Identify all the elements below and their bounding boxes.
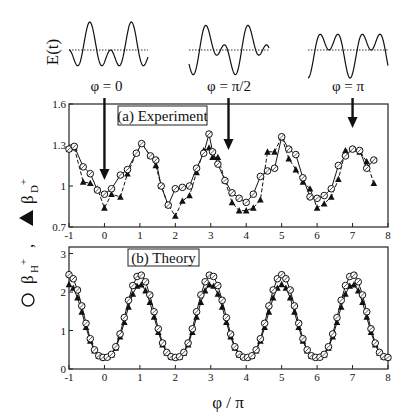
x-tick-label: 1 xyxy=(137,229,143,241)
x-tick-label: 8 xyxy=(385,229,391,241)
arrow-head xyxy=(224,139,234,150)
et-axis-label: E(t) xyxy=(43,39,62,65)
series-line-dashed xyxy=(69,137,374,216)
x-tick-label: 5 xyxy=(279,371,285,383)
y-tick-label: 0 xyxy=(61,363,67,375)
triangle-marker xyxy=(80,178,87,184)
triangle-marker xyxy=(179,198,186,204)
series-line-solid xyxy=(69,134,374,205)
triangle-marker xyxy=(229,199,236,205)
triangle-marker xyxy=(335,176,342,182)
triangle-marker xyxy=(186,192,193,198)
triangle-marker xyxy=(257,196,264,202)
y-axis-title: βH+,βD+ xyxy=(17,179,40,306)
x-tick-label: 7 xyxy=(350,229,356,241)
beta-d-subscript: D xyxy=(28,185,40,193)
panel-a: -10123456780.711.31.6(a) Experiment xyxy=(52,98,391,241)
beta-h-label: β xyxy=(18,275,37,284)
y-tick-label: 1.3 xyxy=(52,139,66,151)
x-tick-label: 1 xyxy=(137,371,143,383)
y-tick-label: 3 xyxy=(61,248,67,260)
beta-h-superscript: + xyxy=(17,259,29,265)
beta-d-superscript: + xyxy=(17,179,29,185)
triangle-marker xyxy=(293,166,300,172)
x-axis-title: φ / π xyxy=(212,393,244,412)
x-tick-label: 4 xyxy=(243,229,249,241)
x-tick-label: 6 xyxy=(314,229,320,241)
panel-b: -10123456780123(b) Theory xyxy=(61,247,392,383)
y-tick-label: 1.6 xyxy=(52,98,66,110)
triangle-marker xyxy=(172,213,179,219)
x-tick-label: 5 xyxy=(279,229,285,241)
waveform-curve xyxy=(69,22,148,66)
beta-d-label: β xyxy=(18,195,37,204)
comma: , xyxy=(18,244,37,248)
x-tick-label: 8 xyxy=(385,371,391,383)
waveform-group: φ = 0φ = π/2φ = π xyxy=(69,22,388,94)
triangle-marker xyxy=(371,180,378,186)
x-tick-label: 3 xyxy=(208,371,214,383)
phase-label: φ = π xyxy=(332,78,365,94)
arrow-head xyxy=(348,117,358,128)
figure: φ = 0φ = π/2φ = πE(t)-10123456780.711.31… xyxy=(0,0,411,419)
triangle-marker xyxy=(236,207,243,213)
panel-a-label: (a) Experiment xyxy=(117,108,208,125)
x-tick-label: 7 xyxy=(350,371,356,383)
phase-label: φ = 0 xyxy=(90,78,122,94)
triangle-marker xyxy=(314,204,321,210)
x-tick-label: 2 xyxy=(173,371,179,383)
y-tick-label: 2 xyxy=(61,286,67,298)
arrow-head xyxy=(99,169,109,180)
x-tick-label: 4 xyxy=(243,371,249,383)
panel-b-label: (b) Theory xyxy=(131,250,196,267)
x-tick-label: 0 xyxy=(102,229,108,241)
triangle-marker xyxy=(101,204,108,210)
y-tick-label: 1 xyxy=(61,325,67,337)
x-tick-label: 3 xyxy=(208,229,214,241)
x-tick-label: 2 xyxy=(173,229,179,241)
waveform-curve xyxy=(308,34,388,78)
filled-triangle-legend-icon xyxy=(19,210,33,226)
triangle-marker xyxy=(328,193,335,199)
y-tick-label: 1 xyxy=(61,180,67,192)
x-tick-label: 0 xyxy=(102,371,108,383)
y-tick-label: 0.7 xyxy=(52,221,66,233)
phase-label: φ = π/2 xyxy=(207,78,251,94)
beta-h-subscript: H xyxy=(28,265,40,273)
open-circle-legend-icon xyxy=(22,294,34,306)
x-tick-label: 6 xyxy=(314,371,320,383)
triangle-marker xyxy=(285,155,292,161)
